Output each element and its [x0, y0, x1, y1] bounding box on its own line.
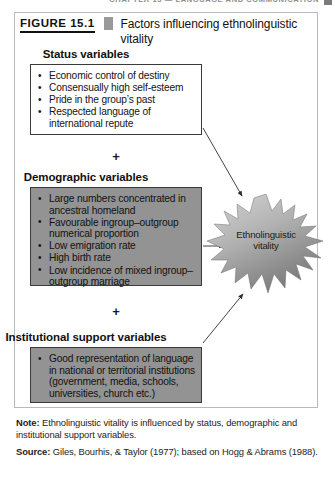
figure-number-label: FIGURE 15.1 — [20, 17, 95, 33]
list-item: Low emigration rate — [38, 240, 195, 252]
list-item: Economic control of destiny — [38, 70, 195, 82]
list-item: Respected language of international repu… — [38, 106, 195, 129]
demographic-variables-box: Large numbers concentrated in ancestral … — [30, 187, 202, 286]
status-variables-list: Economic control of destiny Consensually… — [38, 70, 195, 129]
starburst-shape-icon — [207, 194, 325, 298]
demographic-variables-heading: Demographic variables — [0, 171, 172, 183]
source-line: Source: Giles, Bourhis, & Taylor (1977);… — [16, 446, 322, 458]
status-variables-box: Economic control of destiny Consensually… — [30, 64, 202, 135]
figure-caption: FIGURE 15.1 Factors influencing ethnolin… — [20, 17, 310, 46]
running-header-marker-square — [324, 0, 332, 5]
list-item: Good representation of language in natio… — [38, 353, 195, 399]
status-variables-heading: Status variables — [0, 48, 172, 60]
list-item: High birth rate — [38, 252, 195, 264]
figure-footer: Note: Ethnolinguistic vitality is influe… — [16, 417, 322, 458]
list-item: Favourable ingroup–outgroup numerical pr… — [38, 217, 195, 240]
note-line: Note: Ethnolinguistic vitality is influe… — [16, 417, 322, 440]
list-item: Large numbers concentrated in ancestral … — [38, 193, 195, 216]
running-header: CHAPTER 15 — LANGUAGE AND COMMUNICATION — [0, 0, 335, 7]
source-label: Source: — [16, 446, 50, 457]
figure-title: Factors influencing ethnolinguistic vita… — [121, 17, 299, 46]
source-text: Giles, Bourhis, & Taylor (1977); based o… — [50, 446, 318, 457]
plus-connector-1: + — [30, 151, 202, 163]
plus-connector-2: + — [30, 306, 202, 318]
note-label: Note: — [16, 417, 39, 428]
institutional-support-variables-heading: Institutional support variables — [0, 331, 172, 343]
demographic-variables-list: Large numbers concentrated in ancestral … — [38, 193, 195, 288]
list-item: Consensually high self-esteem — [38, 82, 195, 94]
list-item: Low incidence of mixed ingroup–outgroup … — [38, 265, 195, 288]
running-header-text: CHAPTER 15 — LANGUAGE AND COMMUNICATION — [109, 0, 319, 4]
caption-accent-square-icon — [104, 17, 113, 30]
institutional-support-variables-list: Good representation of language in natio… — [38, 353, 195, 399]
list-item: Pride in the group’s past — [38, 94, 195, 106]
note-text: Ethnolinguistic vitality is influenced b… — [16, 417, 297, 440]
institutional-support-variables-box: Good representation of language in natio… — [30, 347, 202, 403]
